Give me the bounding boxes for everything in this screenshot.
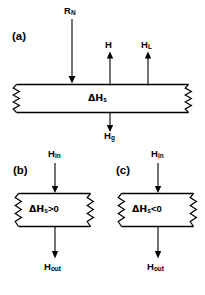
flux-label-hg-sub: g: [111, 134, 115, 141]
box-label-dhs-a: ΔHs: [88, 93, 107, 104]
flux-label-hin-b: Hin: [48, 149, 61, 160]
flux-arrow-h: [107, 52, 113, 86]
box-label-dhs-c-delta: ΔH: [132, 203, 147, 214]
box-label-dhs-b-delta: ΔH: [29, 203, 44, 214]
panel-a-group: [13, 19, 191, 132]
box-label-dhs-b-rest: >0: [48, 203, 59, 214]
panel-label-b: (b): [13, 165, 28, 177]
box-label-dhs-b: ΔHs>0: [29, 204, 59, 215]
flux-arrow-hin-c: [155, 163, 161, 193]
flux-label-rn-sub: N: [71, 9, 76, 16]
box-label-dhs-a-sub: s: [103, 96, 107, 103]
flux-arrow-rn: [69, 19, 76, 84]
flux-label-hout-b-main: H: [44, 261, 51, 272]
flux-arrow-hl: [145, 52, 151, 86]
flux-label-hout-c-sub: out: [154, 265, 164, 272]
box-label-dhs-c-rest: <0: [151, 203, 162, 214]
flux-label-hin-c-main: H: [151, 148, 158, 159]
panel-label-c: (c): [116, 165, 130, 177]
flux-label-rn-main: R: [64, 5, 71, 16]
flux-label-h: H: [105, 40, 112, 50]
flux-label-hl: HL: [141, 40, 152, 51]
figure-root: (a) RN H HL ΔHs Hg (b) Hin ΔHs>0 Hout (c…: [0, 0, 205, 295]
flux-label-h-main: H: [105, 39, 112, 50]
flux-label-hout-b: Hout: [44, 262, 61, 273]
flux-label-hin-b-main: H: [48, 148, 55, 159]
flux-arrow-hin-b: [52, 163, 58, 193]
panel-label-a: (a): [12, 31, 26, 43]
flux-label-hl-sub: L: [148, 43, 152, 50]
flux-arrow-hout-c: [155, 227, 161, 259]
flux-label-hl-main: H: [141, 39, 148, 50]
box-label-dhs-c: ΔHs<0: [132, 204, 162, 215]
flux-label-hout-b-sub: out: [51, 265, 61, 272]
flux-arrow-hout-b: [52, 227, 58, 259]
flux-label-hout-c: Hout: [147, 262, 164, 273]
flux-label-hout-c-main: H: [147, 261, 154, 272]
flux-label-hin-c: Hin: [151, 149, 164, 160]
diagram-canvas: [0, 0, 205, 295]
flux-label-rn: RN: [64, 6, 76, 17]
flux-label-hg: Hg: [104, 131, 115, 142]
flux-label-hg-main: H: [104, 130, 111, 141]
flux-label-hin-b-sub: in: [55, 152, 61, 159]
flux-label-hin-c-sub: in: [158, 152, 164, 159]
box-label-dhs-a-delta: ΔH: [88, 92, 103, 103]
